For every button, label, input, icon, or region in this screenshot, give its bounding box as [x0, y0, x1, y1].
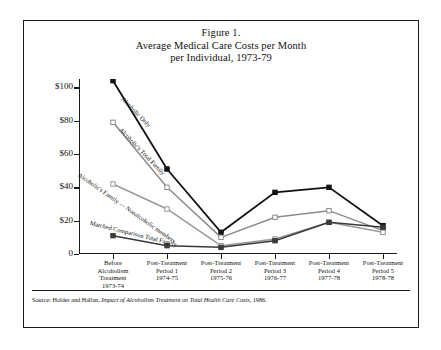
y-tick-label: $20: [13, 215, 73, 225]
data-point-marker: [219, 230, 223, 234]
y-tick-label: 0: [13, 248, 73, 258]
figure-frame: Figure 1. Average Medical Care Costs per…: [23, 20, 419, 328]
title-line-3: per Individual, 1973-79: [24, 52, 418, 65]
series-line: [113, 81, 383, 233]
source-prefix: Source: Holder and Hallan,: [32, 296, 101, 303]
y-tick-label: $100: [13, 81, 73, 91]
y-tick: [74, 187, 79, 188]
data-point-marker: [111, 79, 115, 83]
source-divider: [32, 290, 410, 291]
data-point-marker: [165, 185, 169, 189]
data-point-marker: [381, 230, 385, 234]
y-axis-line: [79, 79, 80, 254]
y-tick: [74, 254, 79, 255]
figure-title: Figure 1. Average Medical Care Costs per…: [24, 27, 418, 65]
data-point-marker: [327, 185, 331, 189]
data-point-marker: [327, 220, 331, 224]
data-point-marker: [111, 233, 115, 237]
x-axis-category-line: 1978-78: [350, 274, 416, 282]
source-suffix: , 1986.: [250, 296, 267, 303]
data-point-marker: [273, 215, 277, 219]
data-point-marker: [273, 238, 277, 242]
plot-area: 0$20$40$60$80$100 Alcoholic OnlyAlcoholi…: [79, 79, 397, 254]
data-point-marker: [111, 120, 115, 124]
x-axis-category: Post-TreatmentPeriod 51978-78: [350, 259, 416, 282]
y-tick-label: $80: [13, 115, 73, 125]
title-line-1: Figure 1.: [24, 27, 418, 40]
data-point-marker: [219, 245, 223, 249]
y-tick: [74, 221, 79, 222]
y-tick-label: $40: [13, 181, 73, 191]
y-tick-label: $60: [13, 148, 73, 158]
data-point-marker: [381, 225, 385, 229]
title-line-2: Average Medical Care Costs per Month: [24, 40, 418, 53]
data-point-marker: [165, 207, 169, 211]
y-tick: [74, 154, 79, 155]
data-point-marker: [327, 208, 331, 212]
series-line: [113, 122, 383, 237]
y-tick: [74, 121, 79, 122]
x-axis-category-line: Post-Treatment: [350, 259, 416, 267]
y-tick: [74, 87, 79, 88]
data-point-marker: [111, 182, 115, 186]
data-point-marker: [273, 190, 277, 194]
source-note: Source: Holder and Hallan, Impact of Alc…: [32, 296, 267, 303]
data-point-marker: [219, 235, 223, 239]
x-axis-category-line: 1973-74: [80, 282, 146, 290]
source-title: Impact of Alcoholism Treatment on Total …: [101, 296, 249, 303]
x-axis-line: [79, 253, 397, 254]
x-axis-category-line: Period 5: [350, 267, 416, 275]
